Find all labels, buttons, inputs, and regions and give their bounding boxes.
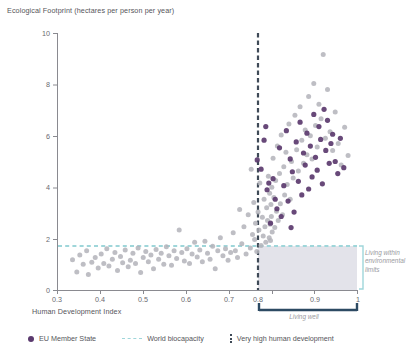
- data-point: [277, 171, 282, 176]
- data-point: [202, 239, 207, 244]
- data-point: [251, 200, 256, 205]
- data-point: [190, 252, 195, 257]
- dashed-line-icon: [122, 338, 142, 339]
- data-point: [270, 176, 275, 181]
- data-point: [266, 180, 271, 185]
- data-point: [268, 221, 273, 226]
- data-point: [262, 224, 267, 229]
- data-point: [346, 153, 351, 158]
- data-point: [213, 266, 218, 271]
- data-point: [330, 132, 335, 137]
- data-point: [328, 141, 333, 146]
- data-point: [262, 197, 267, 202]
- data-point: [101, 261, 106, 266]
- data-point: [154, 247, 159, 252]
- data-point: [156, 257, 161, 262]
- data-point: [136, 246, 141, 251]
- y-tick-marks: [53, 34, 57, 291]
- chart-root: Ecological Footprint (hectares per perso…: [0, 0, 409, 352]
- data-point: [336, 141, 341, 146]
- data-point: [200, 259, 205, 264]
- data-point: [299, 138, 304, 143]
- living-within-limits-bracket: [359, 246, 363, 289]
- legend-item-world-biocapacity[interactable]: World biocapacity: [122, 334, 204, 343]
- data-point: [268, 202, 273, 207]
- data-point: [304, 131, 309, 136]
- data-point: [106, 264, 111, 269]
- data-point: [148, 253, 153, 258]
- data-point: [128, 258, 133, 263]
- data-point: [123, 247, 128, 252]
- data-point: [246, 212, 251, 217]
- data-point: [303, 162, 308, 167]
- data-point: [248, 246, 253, 251]
- data-point: [261, 138, 266, 143]
- data-point: [115, 268, 120, 273]
- data-point: [318, 137, 323, 142]
- legend-item-eu-member-state[interactable]: EU Member State: [28, 334, 96, 343]
- data-point: [104, 246, 109, 251]
- data-point: [177, 228, 182, 233]
- data-point: [321, 107, 326, 112]
- data-point: [187, 261, 192, 266]
- data-point: [226, 258, 231, 263]
- vertical-dashed-line-icon: [230, 334, 232, 343]
- data-point: [126, 264, 131, 269]
- data-point: [184, 246, 189, 251]
- data-point: [285, 198, 290, 203]
- data-point: [335, 171, 340, 176]
- data-point: [257, 181, 262, 186]
- data-point: [264, 205, 269, 210]
- data-point: [112, 250, 117, 255]
- data-point: [166, 253, 171, 258]
- data-point: [172, 248, 177, 253]
- data-point: [84, 248, 89, 253]
- data-point: [323, 136, 328, 141]
- data-point: [311, 81, 316, 86]
- data-point: [306, 186, 311, 191]
- data-point: [315, 145, 320, 150]
- data-point: [281, 183, 286, 188]
- data-point: [253, 221, 258, 226]
- data-point: [89, 260, 94, 265]
- data-point: [298, 104, 303, 109]
- data-point: [325, 118, 330, 123]
- data-point: [99, 252, 104, 257]
- data-point: [133, 261, 138, 266]
- data-point: [120, 260, 125, 265]
- data-point: [263, 240, 268, 245]
- data-point: [192, 240, 197, 245]
- data-point: [276, 218, 281, 223]
- legend-item-very-high-human-development[interactable]: Very high human development: [230, 334, 334, 343]
- data-point: [261, 234, 266, 239]
- data-point: [291, 210, 296, 215]
- data-point: [231, 230, 236, 235]
- legend-label: Very high human development: [237, 334, 334, 343]
- data-point: [252, 237, 257, 242]
- data-point: [301, 150, 306, 155]
- data-point: [270, 229, 275, 234]
- data-point: [341, 165, 346, 170]
- living-well-bracket: [259, 303, 357, 311]
- data-point: [146, 259, 151, 264]
- data-point: [223, 246, 228, 251]
- data-point: [279, 214, 284, 219]
- data-point: [77, 253, 82, 258]
- data-point: [118, 254, 123, 259]
- data-point: [218, 235, 223, 240]
- data-point: [244, 252, 249, 257]
- data-point: [290, 169, 295, 174]
- data-point: [274, 206, 279, 211]
- data-point: [296, 169, 301, 174]
- data-point: [179, 250, 184, 255]
- data-point: [294, 139, 299, 144]
- data-point: [195, 255, 200, 260]
- data-point: [309, 174, 314, 179]
- data-point: [319, 116, 324, 121]
- data-point: [296, 179, 301, 184]
- data-point: [291, 175, 296, 180]
- data-point: [297, 120, 302, 125]
- data-point: [130, 251, 135, 256]
- data-point: [330, 148, 335, 153]
- data-point: [220, 253, 225, 258]
